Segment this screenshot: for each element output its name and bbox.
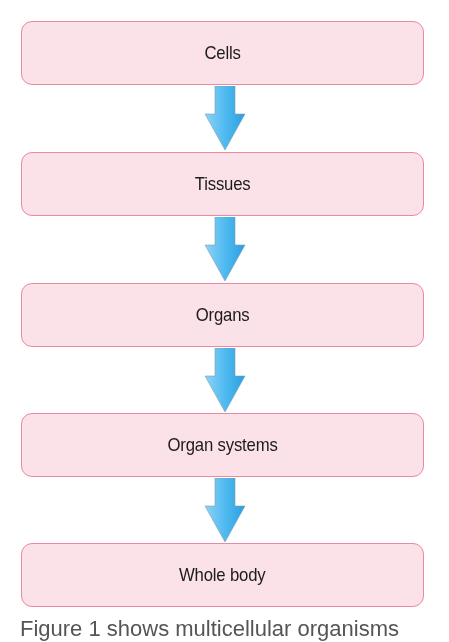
arrow-down-icon: [203, 478, 247, 544]
arrow-down-icon: [203, 217, 247, 283]
node-label: Organs: [196, 304, 250, 326]
node-tissues: Tissues: [21, 152, 424, 216]
arrow-down-icon: [203, 86, 247, 152]
figure-caption: Figure 1 shows multicellular organisms: [20, 616, 399, 642]
arrow-down-icon: [203, 348, 247, 414]
node-organs: Organs: [21, 283, 424, 347]
node-label: Organ systems: [167, 434, 277, 456]
node-label: Whole body: [179, 564, 266, 586]
node-label: Cells: [204, 42, 240, 64]
node-label: Tissues: [195, 173, 251, 195]
node-organ-systems: Organ systems: [21, 413, 424, 477]
node-whole-body: Whole body: [21, 543, 424, 607]
node-cells: Cells: [21, 21, 424, 85]
